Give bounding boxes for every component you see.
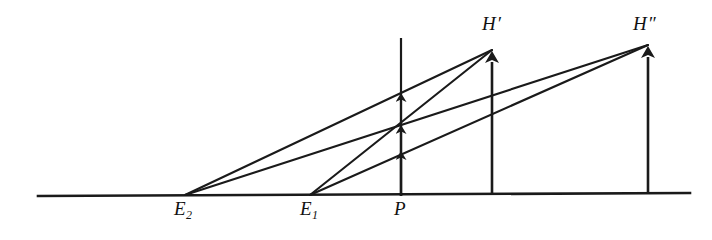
point-label-h-double-prime: H″ <box>633 14 656 33</box>
point-label-h-double-prime-mark: ″ <box>648 13 656 34</box>
point-label-h-double-prime-base: H <box>633 13 647 34</box>
ray-e1-to-h-double-prime <box>310 45 648 195</box>
optical-axis-baseline <box>38 193 690 196</box>
point-label-e2-base: E <box>174 198 186 219</box>
point-label-h-prime: H′ <box>482 14 501 33</box>
point-label-e2: E2 <box>174 199 192 221</box>
point-label-e2-subscript: 2 <box>186 208 192 222</box>
point-label-p: P <box>394 199 406 218</box>
point-label-e1: E1 <box>300 199 318 221</box>
point-label-p-base: P <box>394 198 406 219</box>
point-label-e1-base: E <box>300 198 312 219</box>
point-label-e1-subscript: 1 <box>312 208 318 222</box>
point-label-h-prime-mark: ′ <box>497 13 502 34</box>
point-label-h-prime-base: H <box>482 13 496 34</box>
ray-diagram <box>0 0 712 240</box>
figure-canvas: E2 E1 P H′ H″ <box>0 0 712 240</box>
ray-e2-to-h-double-prime <box>185 45 648 195</box>
